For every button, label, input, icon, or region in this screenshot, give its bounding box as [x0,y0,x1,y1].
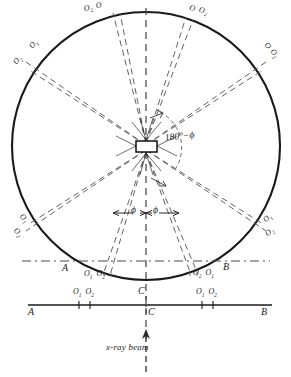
angle-label-phi-left: ϕ [131,206,136,216]
point-label-b-line: B [261,307,267,317]
arc-label-bottom-right: O2 O1 [193,269,214,279]
point-label-c-line: C [148,307,155,317]
point-label-b-arc: B [223,262,229,272]
arc-label-bottom-left: O1 O2 [84,270,105,280]
point-label-c-arc: C [138,286,145,296]
xray-beam-label: x-ray beam [106,343,149,352]
figure-canvas: O2 O O O2 O1 O2 O O2 O1 O2 O1 O2 O1 O2 O… [0,0,291,377]
baseline-label-left: O1 O2 [73,288,94,298]
baseline-label-right: O1 O2 [196,288,217,298]
specimen-rect [136,141,157,152]
point-label-a-line: A [28,307,34,317]
point-label-a-arc: A [62,263,68,273]
angle-label-phi-right: ϕ [153,206,158,216]
diffraction-diagram-svg [0,0,291,377]
